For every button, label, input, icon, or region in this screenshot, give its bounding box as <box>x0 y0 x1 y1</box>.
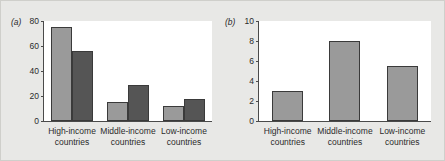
x-axis-label-line2: countries <box>111 137 146 147</box>
chart-panel-b: (b) 10 8 6 4 2 0 High-income countries M… <box>223 1 445 161</box>
bar-group-container <box>259 21 431 121</box>
figure-container: (a) Share of dutiable imports Share of i… <box>0 0 445 161</box>
bar <box>272 91 303 121</box>
chart-panel-a: (a) Share of dutiable imports Share of i… <box>1 1 223 161</box>
x-axis-label-line1: High-income <box>48 126 96 136</box>
y-axis-tick: 8 <box>249 36 259 46</box>
bar-group <box>156 21 212 121</box>
bar <box>387 66 418 121</box>
bar-group <box>374 21 431 121</box>
x-axis-label-line1: High-income <box>264 126 312 136</box>
x-axis-label-line2: countries <box>167 137 202 147</box>
bar-group <box>259 21 316 121</box>
bar <box>72 51 93 121</box>
plot-area-a: 80 60 40 20 0 High-income countries Midd… <box>43 21 212 122</box>
bar <box>329 41 360 121</box>
x-axis-label: Middle-income countries <box>100 126 156 147</box>
y-axis-tick: 40 <box>30 66 44 76</box>
bar-group <box>100 21 156 121</box>
x-axis-label-line1: Low-income <box>379 126 425 136</box>
y-axis-tick: 6 <box>249 56 259 66</box>
x-axis-label-line2: countries <box>328 137 363 147</box>
x-axis-label-line1: Middle-income <box>100 126 155 136</box>
bar <box>184 99 205 121</box>
plot-area-b: 10 8 6 4 2 0 High-income countries Middl… <box>258 21 431 122</box>
y-axis-tick: 0 <box>34 116 44 126</box>
x-axis-label: Low-income countries <box>374 126 431 147</box>
y-axis-tick: 0 <box>249 116 259 126</box>
y-axis-tick: 10 <box>245 16 259 26</box>
bar <box>51 27 72 121</box>
x-axis-label: Low-income countries <box>156 126 212 147</box>
bar-group <box>44 21 100 121</box>
y-axis-tick: 4 <box>249 76 259 86</box>
bar-group-container <box>44 21 212 121</box>
x-axis-label-line1: Middle-income <box>317 126 372 136</box>
bar-group <box>316 21 373 121</box>
x-axis-labels: High-income countries Middle-income coun… <box>259 121 431 147</box>
y-axis-tick: 60 <box>30 41 44 51</box>
panel-a-tag: (a) <box>11 17 21 27</box>
x-axis-label: High-income countries <box>259 126 316 147</box>
y-axis-tick: 2 <box>249 96 259 106</box>
x-axis-labels: High-income countries Middle-income coun… <box>44 121 212 147</box>
x-axis-label-line2: countries <box>55 137 90 147</box>
x-axis-label: Middle-income countries <box>316 126 373 147</box>
bar <box>107 102 128 121</box>
y-axis-tick: 20 <box>30 91 44 101</box>
bar <box>128 85 149 121</box>
y-axis-tick: 80 <box>30 16 44 26</box>
x-axis-label: High-income countries <box>44 126 100 147</box>
x-axis-label-line2: countries <box>270 137 305 147</box>
x-axis-label-line1: Low-income <box>161 126 207 136</box>
panel-b-tag: (b) <box>225 17 235 27</box>
x-axis-label-line2: countries <box>385 137 420 147</box>
bar <box>163 106 184 121</box>
